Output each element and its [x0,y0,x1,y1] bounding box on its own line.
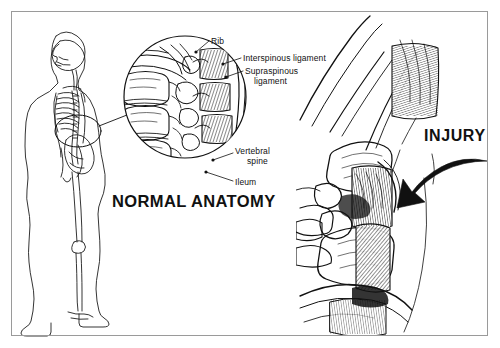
label-supraspinous-line2: ligament [254,77,298,87]
label-rib: Rib [211,37,224,47]
label-supraspinous-ligament: Supraspinous ligament [245,67,298,86]
label-vertebral-spine: Vertebral spine [235,147,270,166]
caption-normal-anatomy: NORMAL ANATOMY [112,192,276,210]
medical-illustration-figure: Rib Interspinous ligament Supraspinous l… [0,0,500,348]
caption-injury: INJURY [424,127,486,145]
label-ileum: Ileum [235,178,256,188]
label-vertebral-line2: spine [247,157,270,167]
label-interspinous-ligament: Interspinous ligament [243,54,326,64]
